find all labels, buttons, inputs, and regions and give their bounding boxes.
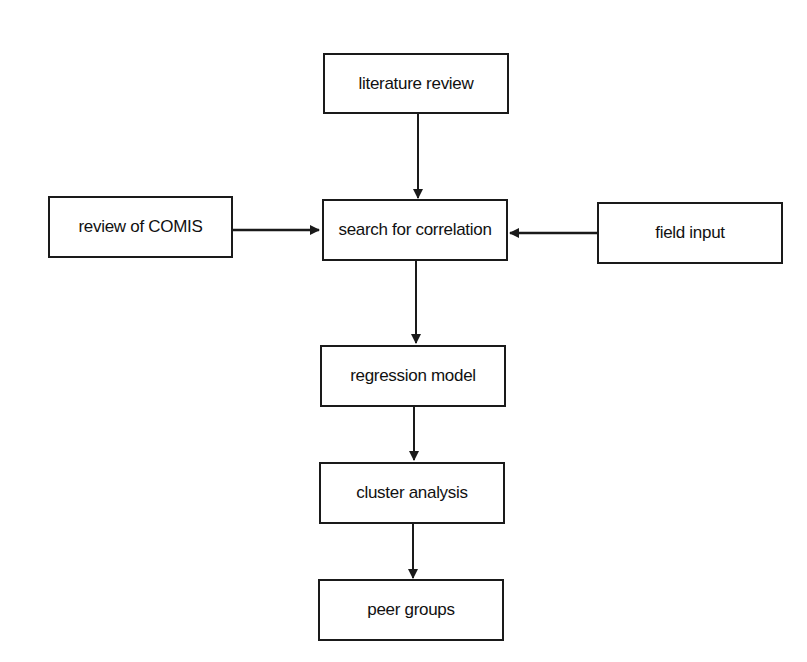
node-label: peer groups <box>367 600 454 620</box>
node-label: regression model <box>350 366 476 386</box>
node-peer-groups: peer groups <box>318 579 504 641</box>
node-review-of-comis: review of COMIS <box>48 196 233 258</box>
node-label: review of COMIS <box>79 217 203 237</box>
node-literature-review: literature review <box>323 53 509 114</box>
node-label: search for correlation <box>338 220 491 240</box>
node-cluster-analysis: cluster analysis <box>319 462 505 524</box>
node-search-for-correlation: search for correlation <box>322 199 508 261</box>
node-label: cluster analysis <box>356 483 467 503</box>
node-regression-model: regression model <box>320 345 506 407</box>
node-label: field input <box>655 223 724 243</box>
node-field-input: field input <box>597 202 783 264</box>
node-label: literature review <box>359 74 474 94</box>
